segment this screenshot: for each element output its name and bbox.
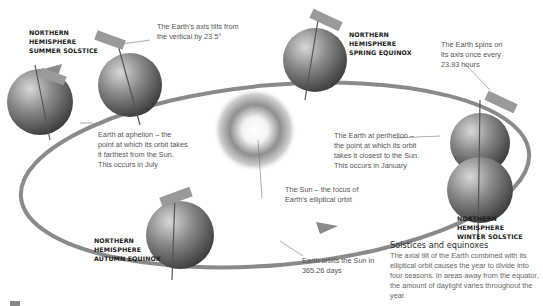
label-spring-equinox: NORTHERN HEMISPHERE SPRING EQUINOX <box>349 30 412 57</box>
note-sun: The Sun – the focus of Earth's elliptica… <box>285 185 358 205</box>
sun <box>213 88 297 172</box>
page-mark <box>10 301 20 306</box>
orbit-diagram: NORTHERN HEMISPHERE SUMMER SOLSTICE NORT… <box>0 0 543 306</box>
note-perihelion: The Earth at perihelion – the point at w… <box>334 131 419 171</box>
label-winter-solstice: NORTHERN HEMISPHERE WINTER SOLSTICE <box>457 214 543 241</box>
note-orbit-period: Earth orbits the Sun in 365.26 days <box>302 256 374 276</box>
note-aphelion: Earth at aphelion – the point at which i… <box>98 130 188 170</box>
earth-summer-solstice-upper <box>94 30 162 125</box>
note-spin: The Earth spins on its axis once every 2… <box>441 40 502 70</box>
label-autumn-equinox: NORTHERN HEMISPHERE AUTUMN EQUINOX <box>94 236 161 263</box>
earth-spring-equinox <box>283 9 347 100</box>
info-box-title: Solstices and equinoxes <box>390 240 488 250</box>
label-summer-solstice: NORTHERN HEMISPHERE SUMMER SOLSTICE <box>29 28 98 55</box>
earth-aphelion <box>7 65 73 140</box>
note-axis-tilt: The Earth's axis tilts from the vertical… <box>157 22 239 42</box>
info-box-body: The axial tilt of the Earth combined wit… <box>390 251 540 301</box>
